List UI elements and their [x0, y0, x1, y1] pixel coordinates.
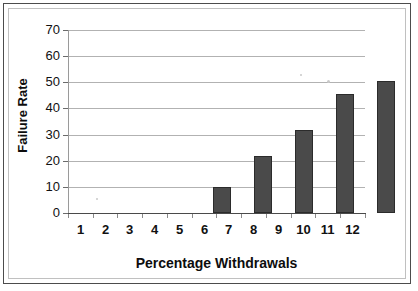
x-tick-label-1: 1	[68, 222, 93, 237]
y-axis-line	[68, 30, 69, 214]
x-tick-label-5: 5	[167, 222, 192, 237]
bar-8	[254, 156, 272, 213]
x-tick-2	[93, 214, 94, 218]
x-tick-7	[216, 214, 217, 218]
y-tick-60	[63, 56, 68, 57]
plot-area	[68, 30, 365, 213]
y-tick-30	[63, 135, 68, 136]
x-tick-label-8: 8	[241, 222, 266, 237]
bar-10	[336, 94, 354, 213]
x-tick-label-10: 10	[291, 222, 316, 237]
x-tick-1	[68, 214, 69, 218]
x-tick-label-4: 4	[142, 222, 167, 237]
x-tick-label-11: 11	[315, 222, 340, 237]
y-tick-label-10: 10	[24, 180, 60, 193]
y-tick-20	[63, 161, 68, 162]
y-tick-label-0: 0	[24, 206, 60, 219]
x-tick-9	[266, 214, 267, 218]
x-tick-end	[365, 214, 366, 218]
y-tick-70	[63, 30, 68, 31]
gridline-30	[68, 135, 365, 136]
x-tick-12	[340, 214, 341, 218]
y-tick-label-70: 70	[24, 23, 60, 36]
bar-9	[295, 130, 313, 213]
x-tick-label-9: 9	[266, 222, 291, 237]
x-tick-label-7: 7	[216, 222, 241, 237]
bar-7	[213, 187, 231, 213]
x-axis-title: Percentage Withdrawals	[68, 255, 365, 271]
gridline-40	[68, 108, 365, 109]
gridline-70	[68, 30, 365, 31]
gridline-60	[68, 56, 365, 57]
y-tick-10	[63, 187, 68, 188]
x-tick-5	[167, 214, 168, 218]
x-tick-10	[291, 214, 292, 218]
x-tick-label-12: 12	[340, 222, 365, 237]
x-tick-6	[192, 214, 193, 218]
y-axis-title: Failure Rate	[15, 56, 30, 176]
x-axis-line	[68, 213, 366, 214]
gridline-50	[68, 82, 365, 83]
chart-figure: 70 60 50 40 30 20 10 0 1 2 3 4 5 6 7 8 9…	[0, 0, 418, 291]
y-tick-50	[63, 82, 68, 83]
scan-speck	[327, 80, 330, 83]
x-tick-11	[315, 214, 316, 218]
x-tick-label-3: 3	[117, 222, 142, 237]
gridline-20	[68, 161, 365, 162]
x-tick-3	[117, 214, 118, 218]
y-tick-40	[63, 108, 68, 109]
scan-speck	[300, 74, 302, 76]
x-tick-4	[142, 214, 143, 218]
x-tick-label-6: 6	[192, 222, 217, 237]
x-tick-label-2: 2	[93, 222, 118, 237]
x-tick-8	[241, 214, 242, 218]
bar-11	[377, 81, 395, 213]
scan-speck	[96, 198, 98, 200]
